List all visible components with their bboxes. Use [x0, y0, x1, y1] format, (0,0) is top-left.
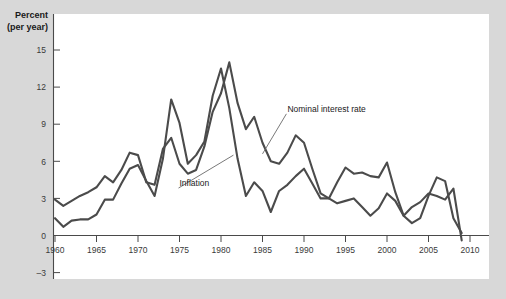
x-tick-label-2000: 2000 [378, 245, 397, 255]
x-tick-label-1995: 1995 [336, 245, 355, 255]
x-tick-label-1965: 1965 [87, 245, 106, 255]
interest-rate-inflation-chart: 15129630–3 19601965197019751980198519901… [0, 0, 506, 299]
x-tick-label-2010: 2010 [461, 245, 480, 255]
plot-area-background [53, 14, 489, 279]
y-tick-label-3: 3 [41, 194, 46, 204]
x-tick-label-1990: 1990 [295, 245, 314, 255]
inflation-label: Inflation [180, 178, 210, 188]
y-tick-label-6: 6 [41, 157, 46, 167]
y-tick-label-15: 15 [37, 45, 47, 55]
y-tick-label-12: 12 [37, 82, 47, 92]
x-tick-label-1975: 1975 [170, 245, 189, 255]
y-tick-label--3: –3 [37, 268, 47, 278]
nominal-interest-rate-label: Nominal interest rate [287, 104, 366, 114]
y-axis-title-line2: (per year) [7, 22, 48, 32]
x-tick-label-1985: 1985 [253, 245, 272, 255]
x-tick-label-1970: 1970 [129, 245, 148, 255]
x-tick-label-1960: 1960 [46, 245, 65, 255]
figure-container: 15129630–3 19601965197019751980198519901… [0, 0, 506, 299]
y-tick-label-0: 0 [41, 231, 46, 241]
x-tick-label-2005: 2005 [419, 245, 438, 255]
x-tick-label-1980: 1980 [212, 245, 231, 255]
y-tick-label-9: 9 [41, 119, 46, 129]
y-axis-title-line1: Percent [15, 10, 48, 20]
